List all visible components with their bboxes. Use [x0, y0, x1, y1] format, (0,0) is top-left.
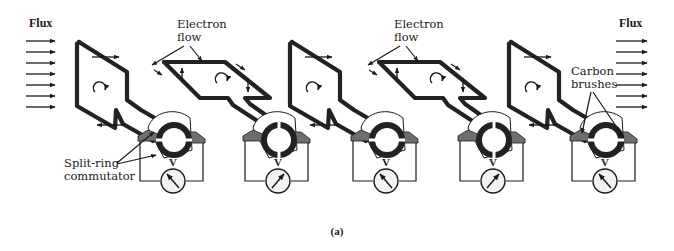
electron-flow-1-line1: Electron [177, 17, 227, 31]
carbon-brushes-line2: brushes [571, 77, 617, 91]
electron-flow-1-line2: flow [177, 30, 202, 44]
voltmeter-label: V [489, 156, 497, 168]
coil-stages: VVVVV [77, 42, 637, 193]
electron-arrow-right [236, 64, 245, 70]
circuit-wire-left [140, 141, 160, 181]
flux-right-label: Flux [619, 16, 642, 30]
circuit-wire-left [460, 141, 480, 181]
electron-flow-2-pointer-b [406, 46, 418, 61]
coil-wire-bottom [509, 44, 585, 141]
coil-wire-top [379, 62, 485, 118]
rotation-arrow-icon [306, 82, 318, 92]
split-ring-line1: Split-ring [64, 156, 120, 170]
flux-arrows-left [26, 41, 55, 107]
electron-flow-label-2: Electron flow [368, 17, 444, 65]
rotation-arrow-icon [215, 73, 227, 83]
split-ring-pointer-a [117, 132, 154, 163]
electron-arrow-left [154, 70, 162, 75]
rotation-arrow-icon [430, 73, 442, 83]
electron-flow-2-line1: Electron [394, 17, 444, 31]
coil-corner [77, 42, 79, 44]
flux-left-label: Flux [29, 16, 52, 30]
electron-arrow-right [451, 64, 460, 70]
figure-caption: (a) [331, 225, 344, 238]
coil-wire-top [292, 42, 378, 124]
split-ring-gap [278, 120, 281, 160]
circuit-wire-left [353, 141, 373, 181]
voltmeter-label: V [382, 156, 390, 168]
split-ring-gap [369, 139, 405, 142]
coil-wire-top [164, 62, 270, 118]
coil-wire-bottom [290, 44, 366, 141]
coil-corner [290, 42, 292, 44]
rotation-arrow-icon [525, 82, 537, 92]
split-ring-gap [156, 139, 192, 142]
carbon-brushes-line1: Carbon [571, 64, 614, 78]
circuit-wire-left [245, 141, 265, 181]
voltmeter-label: V [601, 156, 609, 168]
circuit-wire-left [572, 141, 592, 181]
diagram-canvas: Flux Flux VVVVV Electron flow Electron f… [0, 0, 674, 251]
stage-3: V [290, 42, 418, 193]
voltmeter-label: V [274, 156, 282, 168]
rotation-arrow-icon [93, 82, 105, 92]
split-ring-pointer-b [117, 155, 156, 164]
voltmeter-label: V [169, 156, 177, 168]
flux-arrows-right [616, 41, 647, 107]
generator-diagram: Flux Flux VVVVV Electron flow Electron f… [0, 0, 674, 251]
electron-flow-label-1: Electron flow [152, 17, 227, 65]
coil-corner [509, 42, 511, 44]
split-ring-line2: commutator [64, 169, 136, 183]
coil-wire-bottom [77, 44, 153, 141]
electron-flow-2-line2: flow [394, 30, 419, 44]
electron-flow-1-pointer-b [190, 46, 202, 61]
split-ring-gap [588, 139, 624, 142]
split-ring-gap [493, 120, 496, 160]
electron-arrow-left [369, 70, 377, 75]
coil-wire-top [79, 42, 165, 124]
